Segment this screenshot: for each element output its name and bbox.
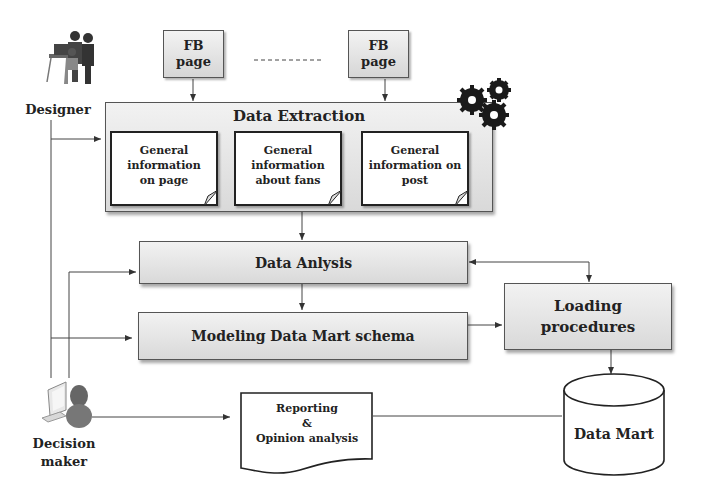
extraction-item-page: Generalinformationon page bbox=[110, 131, 218, 206]
data-extraction-title: Data Extraction bbox=[233, 107, 365, 125]
extraction-item-fans: Generalinformationabout fans bbox=[234, 131, 342, 206]
designer-team-icon bbox=[42, 30, 98, 88]
extraction-item-post: Generalinformation onpost bbox=[361, 131, 469, 206]
modeling-schema-box: Modeling Data Mart schema bbox=[138, 312, 468, 360]
decision-maker-label: Decision maker bbox=[24, 435, 104, 471]
designer-label: Designer bbox=[18, 101, 98, 118]
data-analysis-box: Data Anlysis bbox=[139, 241, 468, 284]
data-mart-cylinder: Data Mart bbox=[562, 372, 666, 478]
fb-page-source-1: FBpage bbox=[163, 30, 224, 78]
reporting-opinion-document: Reporting & Opinion analysis bbox=[240, 392, 374, 474]
user-computer-icon bbox=[38, 372, 94, 430]
gears-icon bbox=[455, 78, 521, 134]
fb-page-source-2: FBpage bbox=[348, 30, 409, 78]
loading-procedures-box: Loadingprocedures bbox=[504, 283, 672, 350]
